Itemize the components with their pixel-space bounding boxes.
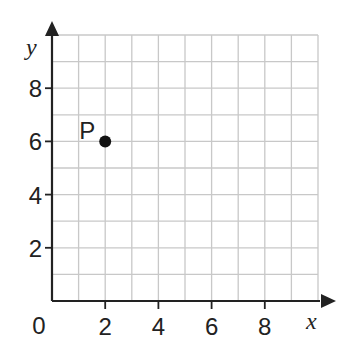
tick-labels: 246824680xy [24,34,317,340]
y-axis-arrow-icon [45,21,59,36]
origin-label: 0 [32,312,45,339]
data-points: P [79,117,111,147]
data-point [99,135,111,147]
grid-lines [52,35,318,301]
x-axis-label: x [305,308,317,334]
x-tick-label: 6 [205,313,218,340]
x-tick-label: 8 [258,313,271,340]
y-tick-label: 6 [29,128,42,155]
y-tick-label: 2 [29,235,42,262]
x-axis-arrow-icon [321,294,336,308]
axes [45,21,336,308]
x-tick-label: 2 [99,313,112,340]
x-tick-label: 4 [152,313,165,340]
coordinate-grid-chart: 246824680xy P [0,0,337,357]
point-label: P [79,117,95,144]
y-tick-label: 8 [29,75,42,102]
y-axis-label: y [24,34,37,60]
y-tick-label: 4 [29,182,42,209]
